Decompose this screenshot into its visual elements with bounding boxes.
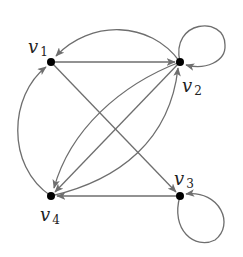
loop-v3 — [178, 194, 224, 243]
edge-v2-v1-arc — [56, 30, 180, 62]
vertex-v3 — [176, 192, 184, 200]
vertex-v4 — [47, 192, 55, 200]
loop-v2 — [179, 26, 225, 67]
label-v4: v4 — [40, 204, 60, 227]
edge-v2-v4-straight — [55, 62, 180, 192]
vertex-v1 — [47, 58, 55, 66]
label-v1: v1 — [28, 36, 48, 59]
vertex-v2 — [176, 58, 184, 66]
label-v2: v2 — [182, 75, 202, 98]
directed-graph: v1 v2 v3 v4 — [0, 0, 243, 257]
edge-v4-v1-arc — [18, 67, 51, 196]
edge-v1-v3 — [51, 62, 176, 192]
label-v3: v3 — [174, 168, 194, 191]
